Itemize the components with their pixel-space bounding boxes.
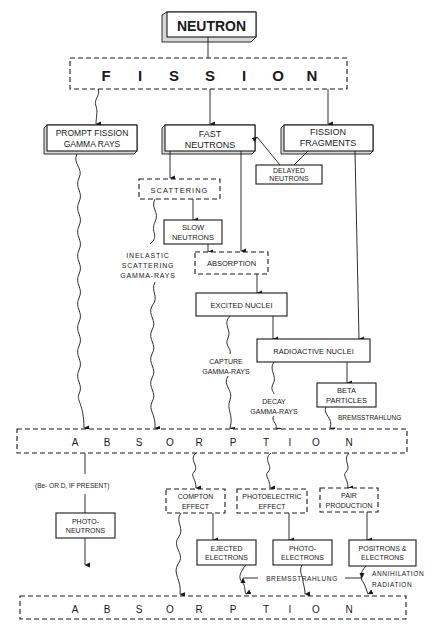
node-scattering: SCATTERING (139, 179, 220, 199)
label-line: INELASTIC (126, 252, 169, 259)
fission-letter: S (169, 67, 179, 84)
label-line: DELAYED (273, 167, 305, 174)
label-line: BETA (337, 386, 356, 395)
label-line: EFFECT (182, 503, 210, 510)
node-delayed-neutrons: DELAYED NEUTRONS (256, 165, 322, 184)
label-line: SCATTERING (151, 186, 209, 195)
label-line: CAPTURE (209, 358, 243, 365)
label-be-or-d: (Be- OR D, IF PRESENT) (35, 482, 109, 490)
label-line: ANNIHILATION (372, 570, 424, 577)
label-line: DECAY (262, 398, 286, 405)
label-line: GAMMA-RAYS (202, 368, 250, 375)
node-ejected-electrons: EJECTED ELECTRONS (197, 540, 256, 565)
absorption-letter: O (312, 604, 320, 615)
node-positrons-electrons: POSITRONS & ELECTRONS (349, 540, 416, 566)
absorption-letter: O (312, 437, 320, 448)
label-line: PROMPT FISSION (56, 128, 129, 138)
label-annihilation-radiation: ANNIHILATION RADIATION (372, 570, 424, 588)
node-photo-electrons: PHOTO- ELECTRONS (273, 540, 332, 565)
node-photoelectric-effect: PHOTOELECTRIC EFFECT (237, 489, 307, 513)
fission-letter: I (138, 67, 142, 84)
label-line: PHOTO- (72, 518, 100, 525)
absorption-letter: A (72, 604, 79, 615)
absorption-letter: S (136, 604, 143, 615)
absorption-letter: P (230, 437, 237, 448)
label-line: EXCITED NUCLEI (210, 301, 272, 310)
absorption-letter: T (263, 437, 269, 448)
node-prompt-fission-gamma-rays: PROMPT FISSION GAMMA RAYS (44, 125, 137, 154)
node-absorption-1: A B S O R P T I O N (17, 429, 407, 453)
fission-letter: N (307, 67, 318, 84)
node-fission-fragments: FISSION FRAGMENTS (281, 125, 373, 154)
absorption-letter: B (104, 604, 111, 615)
label-line: PHOTOELECTRIC (242, 493, 301, 500)
label-bremsstrahlung-1: BREMSSTRAHLUNG (338, 414, 401, 421)
label-line: NEUTRONS (66, 527, 106, 534)
absorption-letter: A (72, 437, 79, 448)
label-line: PHOTO- (289, 545, 317, 552)
absorption-letter: P (230, 604, 237, 615)
neutron-label: NEUTRON (177, 18, 246, 34)
label-line: EJECTED (211, 545, 243, 552)
absorption-letter: N (345, 604, 352, 615)
label-line: SLOW (182, 223, 205, 232)
absorption-letter: B (104, 437, 111, 448)
label-line: ELECTRONS (281, 554, 324, 561)
label-line: COMPTON (178, 493, 214, 500)
node-compton-effect: COMPTON EFFECT (166, 489, 225, 513)
node-radioactive-nuclei: RADIOACTIVE NUCLEI (257, 339, 370, 362)
node-beta-particles: BETA PARTICLES (317, 383, 376, 407)
label-line: PAIR (341, 492, 357, 499)
fission-letter: F (101, 67, 110, 84)
label-line: NEUTRONS (269, 175, 309, 182)
fission-letter: S (205, 67, 215, 84)
label-bremsstrahlung-2: BREMSSTRAHLUNG (266, 575, 338, 582)
label-line: GAMMA-RAYS (120, 272, 175, 279)
absorption-letter: T (263, 604, 269, 615)
label-line: NEUTRONS (172, 233, 214, 242)
absorption-letter: I (289, 437, 292, 448)
label-line: GAMMA-RAYS (250, 408, 298, 415)
absorption-letter: N (345, 437, 352, 448)
node-photo-neutrons: PHOTO- NEUTRONS (56, 513, 115, 538)
neutron-fission-flow-diagram: NEUTRON F I S S I O N PROMPT FISSION GAM… (0, 0, 448, 629)
label-line: FAST (199, 129, 222, 139)
label-line: FRAGMENTS (300, 138, 357, 148)
label-line: GAMMA RAYS (64, 139, 121, 149)
label-line: ELECTRONS (205, 554, 248, 561)
label-capture-gamma-rays: CAPTURE GAMMA-RAYS (202, 358, 250, 375)
label-line: PRODUCTION (325, 502, 372, 509)
label-line: EFFECT (258, 503, 286, 510)
label-line: ABSORPTION (207, 259, 256, 268)
absorption-letter: O (166, 604, 174, 615)
label-line: PARTICLES (326, 396, 367, 405)
node-pair-production: PAIR PRODUCTION (320, 488, 378, 512)
label-line: SCATTERING (122, 262, 175, 269)
absorption-letter: R (195, 604, 202, 615)
label-line: POSITRONS & (359, 545, 407, 552)
label-inelastic-scattering-gamma-rays: INELASTIC SCATTERING GAMMA-RAYS (120, 252, 175, 279)
label-decay-gamma-rays: DECAY GAMMA-RAYS (250, 398, 298, 415)
fission-letter: O (272, 67, 284, 84)
node-neutron: NEUTRON (162, 12, 256, 42)
absorption-letter: I (289, 604, 292, 615)
absorption-letter: R (195, 437, 202, 448)
node-absorption-small: ABSORPTION (195, 252, 268, 274)
absorption-letter: S (136, 437, 143, 448)
absorption-letter: O (166, 437, 174, 448)
fission-letter: I (242, 67, 246, 84)
node-absorption-2: A B S O R P T I O N (20, 596, 406, 619)
label-line: NEUTRONS (185, 140, 236, 150)
node-slow-neutrons: SLOW NEUTRONS (164, 220, 222, 244)
label-line: RADIATION (372, 581, 412, 588)
node-fast-neutrons: FAST NEUTRONS (162, 125, 255, 154)
label-line: RADIOACTIVE NUCLEI (273, 347, 353, 356)
node-excited-nuclei: EXCITED NUCLEI (196, 293, 287, 316)
label-line: ELECTRONS (361, 554, 404, 561)
node-fission: F I S S I O N (70, 58, 347, 89)
label-line: FISSION (310, 127, 346, 137)
